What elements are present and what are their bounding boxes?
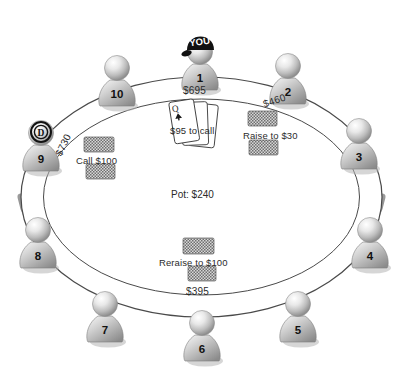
seat-number-8: 8	[35, 250, 42, 262]
seat-number-5: 5	[295, 324, 302, 336]
seat-number-4: 4	[367, 250, 374, 262]
stack-label-seat-6: $395	[186, 287, 209, 297]
pawn-seat-10[interactable]: 10	[99, 56, 138, 112]
action-raise: Raise to $30	[243, 131, 298, 141]
seat-number-1: 1	[197, 72, 204, 84]
poker-table-diagram: YOU12345678D910 Q	[0, 0, 403, 370]
action-hero-to-call: $95 to call	[170, 126, 214, 136]
pot-amount: Pot: $240	[171, 190, 214, 200]
hero-cards: Q Q Q	[169, 99, 219, 148]
action-call: Call $100	[76, 156, 117, 166]
seat-number-10: 10	[111, 88, 124, 100]
pawn-seat-6[interactable]: 6	[184, 311, 223, 367]
seat-number-3: 3	[356, 151, 362, 163]
stack-label-seat-1: $695	[183, 86, 206, 96]
seat-number-7: 7	[102, 324, 108, 336]
dealer-button-icon: D	[31, 122, 51, 142]
svg-text:D: D	[38, 128, 45, 138]
action-reraise: Reraise to $100	[159, 258, 228, 268]
seat-number-2: 2	[285, 86, 291, 98]
seat-number-6: 6	[199, 343, 205, 355]
table-graphics: YOU12345678D910 Q	[0, 0, 403, 370]
seat-number-9: 9	[38, 153, 44, 165]
